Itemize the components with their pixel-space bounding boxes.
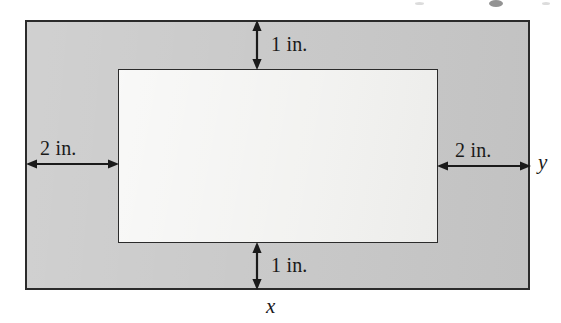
bottom-margin-arrow	[248, 242, 266, 290]
scan-artifact	[542, 2, 550, 5]
right-margin-arrow	[437, 157, 531, 175]
width-variable-label: x	[266, 296, 275, 317]
top-margin-arrow	[248, 20, 266, 70]
top-margin-label: 1 in.	[271, 34, 308, 54]
bottom-margin-label: 1 in.	[271, 255, 308, 275]
left-margin-arrow	[26, 155, 119, 173]
scan-artifact	[489, 0, 503, 7]
scan-artifact	[415, 2, 424, 5]
margin-diagram-figure: 1 in. 1 in. 2 in. 2 in. x y	[0, 0, 561, 323]
print-area-rectangle	[118, 69, 438, 243]
height-variable-label: y	[538, 152, 547, 173]
